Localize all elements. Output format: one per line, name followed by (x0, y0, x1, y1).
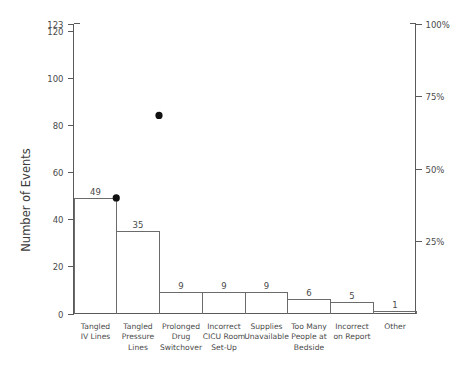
left-axis-ticks (68, 25, 74, 315)
right-axis-ticks (416, 25, 422, 242)
bar-2 (160, 293, 203, 314)
left-axis-tick-labels: 020406080100120123 (47, 20, 63, 320)
category-label-0: TangledIV Lines (80, 322, 110, 342)
bar-value-label-2: 9 (178, 281, 183, 291)
right-axis: 25%50%75%100% (410, 20, 450, 314)
bar-4 (246, 293, 288, 314)
category-label-1: TangledPressureLines (122, 322, 155, 352)
y-axis-title: Number of Events (19, 148, 33, 252)
right-tick-label-75%: 75% (426, 92, 445, 102)
bar-1 (117, 232, 160, 314)
bars-group (75, 199, 417, 314)
left-tick-label-123: 123 (47, 20, 63, 30)
category-label-5: Too ManyPeople atBedside (290, 322, 327, 352)
bar-5 (288, 300, 331, 314)
bar-value-label-0: 49 (90, 187, 101, 197)
cumulative-dot-0 (113, 194, 120, 201)
right-tick-label-100%: 100% (426, 20, 450, 30)
cumulative-dot-1 (155, 112, 162, 119)
left-tick-label-0: 0 (58, 310, 63, 320)
right-tick-label-25%: 25% (426, 237, 445, 247)
category-label-7: Other (384, 322, 406, 331)
bar-value-label-5: 6 (306, 288, 311, 298)
left-tick-label-60: 60 (53, 168, 64, 178)
category-label-4: SuppliesUnavailable (244, 322, 289, 342)
left-tick-label-40: 40 (53, 215, 64, 225)
bar-value-label-7: 1 (392, 300, 397, 310)
bar-3 (203, 293, 246, 314)
bar-value-labels: 4935999651 (90, 187, 398, 310)
bar-6 (331, 303, 374, 314)
left-tick-label-80: 80 (53, 121, 64, 131)
left-tick-label-100: 100 (47, 74, 63, 84)
category-label-2: ProlongedDrugSwitchover (160, 322, 203, 352)
bar-0 (75, 199, 117, 314)
category-labels: TangledIV LinesTangledPressureLinesProlo… (80, 322, 407, 352)
right-axis-tick-labels: 25%50%75%100% (426, 20, 450, 247)
bar-value-label-3: 9 (221, 281, 226, 291)
left-tick-label-20: 20 (53, 262, 64, 272)
chart-canvas: 020406080100120123 25%50%75%100% 4935999… (0, 0, 472, 365)
bar-value-label-1: 35 (133, 220, 144, 230)
bar-value-label-4: 9 (264, 281, 269, 291)
cumulative-series (113, 112, 163, 202)
pareto-chart: 020406080100120123 25%50%75%100% 4935999… (0, 0, 472, 365)
bar-value-label-6: 5 (349, 291, 354, 301)
category-label-6: Incorrecton Report (333, 322, 370, 342)
right-tick-label-50%: 50% (426, 165, 445, 175)
category-label-3: IncorrectCICU RoomSet-Up (203, 322, 245, 352)
